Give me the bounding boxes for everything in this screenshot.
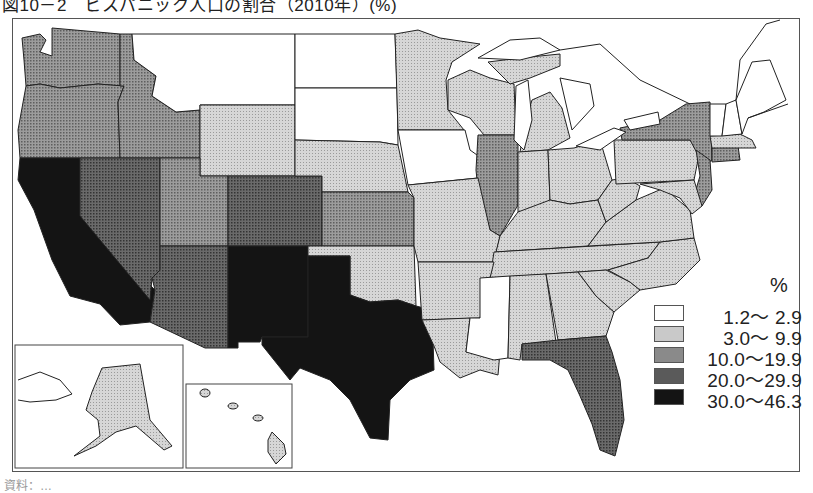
state-oregon	[18, 84, 124, 158]
legend-item: 3.0～ 9.9	[652, 325, 802, 344]
legend-item: 30.0～46.3	[652, 388, 802, 407]
state-pennsylvania	[614, 140, 700, 184]
source-note: 資料：…	[4, 476, 52, 493]
state-florida	[522, 336, 624, 456]
legend-item: 1.2～ 2.9	[652, 304, 802, 323]
hawaii-inset	[186, 384, 292, 468]
island-maui	[253, 415, 263, 421]
legend-unit: %	[770, 274, 788, 297]
state-north-dakota	[295, 34, 397, 88]
legend-swatch	[654, 368, 684, 384]
state-arizona	[150, 246, 228, 348]
state-iowa	[398, 130, 484, 185]
state-colorado	[228, 176, 322, 246]
state-wyoming	[200, 105, 295, 176]
legend-label: 30.0～46.3	[707, 386, 802, 413]
island-kauai	[200, 389, 210, 397]
state-south-dakota	[295, 88, 398, 145]
legend-item: 10.0～19.9	[652, 346, 802, 365]
legend-swatch	[654, 305, 684, 321]
state-washington	[22, 28, 120, 88]
legend-swatch	[654, 389, 684, 405]
alaska-inset	[15, 345, 183, 468]
island-oahu	[228, 403, 238, 409]
legend-swatch	[654, 326, 684, 342]
state-new-mexico	[228, 246, 308, 348]
legend-item: 20.0～29.9	[652, 367, 802, 386]
state-kansas	[322, 192, 414, 246]
legend-swatch	[654, 347, 684, 363]
state-maine	[736, 60, 786, 134]
